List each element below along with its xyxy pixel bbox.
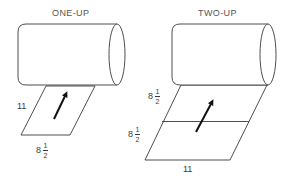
fraction-numerator: 1 [44, 142, 48, 149]
two-up-sheet [145, 85, 267, 160]
fraction-whole: 8 [148, 92, 153, 101]
one-up-bottom-dimension: 8 1 2 [36, 142, 48, 159]
fraction-denominator: 2 [156, 98, 160, 105]
one-up-panel [18, 24, 125, 135]
fraction-bar [43, 150, 48, 151]
fraction: 1 2 [155, 88, 160, 105]
one-up-cylinder [18, 24, 117, 85]
fraction-whole: 8 [36, 146, 41, 155]
fraction-denominator: 2 [44, 152, 48, 159]
two-up-title: TWO-UP [198, 9, 237, 18]
two-up-cylinder-end [260, 24, 276, 85]
two-up-lower-dimension: 8 1 2 [128, 126, 140, 143]
one-up-cylinder-end [109, 24, 125, 85]
fraction: 1 2 [43, 142, 48, 159]
two-up-upper-dimension: 8 1 2 [148, 88, 160, 105]
fraction-bar [155, 96, 160, 97]
fraction: 1 2 [135, 126, 140, 143]
fraction-bar [135, 134, 140, 135]
two-up-bottom-dimension: 11 [183, 165, 192, 174]
one-up-title: ONE-UP [52, 9, 89, 18]
fraction-whole: 8 [128, 130, 133, 139]
fraction-numerator: 1 [156, 88, 160, 95]
two-up-cylinder [172, 24, 268, 85]
fraction-denominator: 2 [136, 136, 140, 143]
fraction-numerator: 1 [136, 126, 140, 133]
two-up-panel [145, 24, 276, 160]
one-up-side-dimension: 11 [17, 102, 26, 111]
